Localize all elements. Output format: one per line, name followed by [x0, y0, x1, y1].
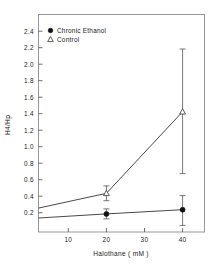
x-tick-label-10: 10	[64, 236, 72, 243]
y-tick-label-1.8: 1.8	[24, 77, 34, 84]
y-tick-label-2.2: 2.2	[24, 44, 34, 51]
y-tick-label-1.4: 1.4	[24, 110, 34, 117]
x-axis-title: Halothane ( mM )	[93, 250, 149, 258]
y-tick-label-0.2: 0.2	[24, 209, 34, 216]
x-tick-label-30: 30	[141, 236, 149, 243]
legend-label-chronic-ethanol: Chronic Ethanol	[57, 27, 106, 34]
y-tick-label-0.4: 0.4	[24, 193, 34, 200]
filled-circle-icon	[48, 28, 53, 33]
chronic-ethanol-marker-40	[180, 207, 185, 212]
y-tick-label-2.0: 2.0	[24, 61, 34, 68]
y-tick-label-2.4: 2.4	[24, 28, 34, 35]
y-tick-label-1.6: 1.6	[24, 94, 34, 101]
x-tick-label-40: 40	[179, 236, 187, 243]
y-tick-label-0.8: 0.8	[24, 160, 34, 167]
legend-label-control: Control	[57, 36, 79, 43]
chart-figure: 2.4 2.2 2.0 1.8 1.6 1.4 1.2 1.0 0.8 0.6 …	[0, 0, 222, 264]
chronic-ethanol-marker-20	[104, 211, 109, 216]
y-tick-label-0.6: 0.6	[24, 176, 34, 183]
plot-frame	[39, 15, 205, 233]
y-tick-label-1.0: 1.0	[24, 143, 34, 150]
y-tick-label-1.2: 1.2	[24, 127, 34, 134]
y-axis-title: H4/Hp	[4, 115, 12, 135]
x-tick-label-20: 20	[102, 236, 110, 243]
